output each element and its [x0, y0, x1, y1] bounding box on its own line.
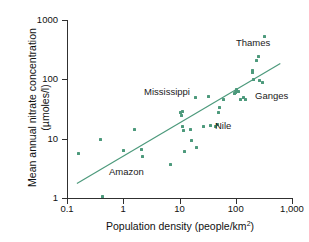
- x-axis-title-base: Population density (people/km: [106, 220, 247, 232]
- scatter-point: [251, 71, 254, 74]
- scatter-point: [239, 98, 242, 101]
- annotation-amazon: Amazon: [109, 166, 144, 177]
- y-axis-title: Mean annual nitrate concentration (µmole…: [26, 8, 51, 208]
- scatter-point: [183, 150, 186, 153]
- scatter-point: [190, 139, 193, 142]
- annotation-nile: Nile: [215, 120, 231, 131]
- scatter-point: [217, 111, 220, 114]
- y-axis-title-line1: Mean annual nitrate concentration: [26, 28, 38, 187]
- scatter-point: [189, 128, 192, 131]
- scatter-point: [122, 149, 125, 152]
- scatter-point: [202, 125, 205, 128]
- scatter-point: [140, 148, 143, 151]
- scatter-point: [180, 114, 183, 117]
- scatter-point: [181, 110, 184, 113]
- x-tick-label: 1,000: [270, 203, 309, 214]
- scatter-point: [101, 195, 104, 198]
- scatter-point: [141, 155, 144, 158]
- scatter-point: [209, 124, 212, 127]
- chart-figure: 1101001000 0.11101001,000 ThamesMississi…: [0, 0, 309, 242]
- x-axis-title-tail: ): [251, 220, 255, 232]
- annotation-mississippi: Mississippi: [144, 86, 190, 97]
- scatter-point: [194, 96, 197, 99]
- annotation-thames: Thames: [236, 37, 270, 48]
- scatter-point: [222, 98, 225, 101]
- scatter-point: [133, 128, 136, 131]
- x-tick-label: 100: [214, 203, 258, 214]
- scatter-point: [237, 90, 240, 93]
- scatter-point: [244, 98, 247, 101]
- scatter-point: [255, 59, 258, 62]
- scatter-point: [169, 163, 172, 166]
- scatter-point: [252, 78, 255, 81]
- scatter-point: [181, 125, 184, 128]
- x-axis-title: Population density (people/km2): [55, 220, 305, 232]
- y-axis-title-line2: (µmoles/l): [38, 8, 51, 208]
- scatter-point: [207, 95, 210, 98]
- scatter-point: [261, 81, 264, 84]
- annotation-ganges: Ganges: [255, 90, 288, 101]
- scatter-point: [257, 55, 260, 58]
- scatter-point: [218, 106, 221, 109]
- scatter-point: [182, 129, 185, 132]
- x-tick-label: 1: [101, 203, 145, 214]
- scatter-point: [195, 146, 198, 149]
- scatter-point: [77, 152, 80, 155]
- x-tick-label: 10: [158, 203, 202, 214]
- x-tick-label: 0.1: [45, 203, 89, 214]
- scatter-point: [99, 138, 102, 141]
